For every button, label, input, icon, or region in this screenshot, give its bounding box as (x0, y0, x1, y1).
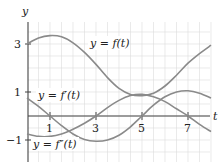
x-tick-label-5: 5 (138, 122, 145, 135)
x-tick-label-1: 1 (46, 122, 53, 135)
y-tick-label-neg1: −1 (6, 134, 22, 147)
label-f-prime: y = f′(t) (37, 89, 80, 102)
chart: y t 1 3 5 7 3 1 −1 y = f(t) y = f′(t) y … (0, 0, 223, 166)
x-tick-label-3: 3 (92, 122, 99, 135)
y-tick-label-1: 1 (14, 86, 21, 99)
t-axis-label: t (213, 110, 218, 123)
x-tick-label-7: 7 (184, 122, 191, 135)
label-f-double-prime: y = f″(t) (32, 138, 77, 151)
label-f: y = f(t) (89, 37, 130, 50)
y-axis-label: y (21, 5, 29, 18)
y-tick-label-3: 3 (14, 38, 21, 51)
